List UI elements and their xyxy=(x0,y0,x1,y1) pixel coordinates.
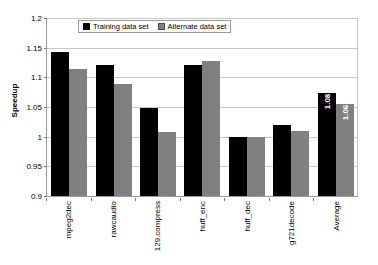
bar-group xyxy=(225,18,269,196)
y-axis-tick-label: 1.05 xyxy=(2,103,47,112)
bar-group xyxy=(47,18,91,196)
y-axis-tick-label: 1.1 xyxy=(2,73,47,82)
bar-group xyxy=(180,18,224,196)
x-axis-tick-label: rawcaudio xyxy=(108,201,117,237)
x-axis-tick-label: 129.compress xyxy=(153,201,162,251)
x-axis-tick-label: huff_dec xyxy=(242,201,251,232)
chart-legend: Training data set Alternate data set xyxy=(78,20,231,33)
bar-group xyxy=(269,18,313,196)
legend-swatch-icon-training xyxy=(83,23,90,30)
x-axis-tick-label: g721decode xyxy=(287,201,296,245)
bar-groups: 1.081.06 xyxy=(47,18,358,196)
bar-pair: 1.081.06 xyxy=(314,18,358,196)
x-axis-tick-mark xyxy=(224,198,225,201)
speedup-bar-chart: Speedup 0.90.9511.051.11.151.2 1.081.06 … xyxy=(0,0,378,265)
x-axis-tick-mark xyxy=(91,198,92,201)
y-axis-tick-label: 1.15 xyxy=(2,43,47,52)
bar-pair xyxy=(136,18,180,196)
bar-training xyxy=(140,108,158,196)
bar-alternate xyxy=(247,137,265,196)
plot-area: 0.90.9511.051.11.151.2 1.081.06 xyxy=(46,18,358,197)
bar-value-label: 1.06 xyxy=(340,105,349,121)
bar-pair xyxy=(47,18,91,196)
x-axis-label-cell: huff_enc xyxy=(180,199,225,263)
x-axis-tick-mark xyxy=(135,198,136,201)
bar-pair xyxy=(269,18,313,196)
y-axis-tick-label: 0.9 xyxy=(2,192,47,201)
legend-swatch-icon-alternate xyxy=(158,23,165,30)
bar-pair xyxy=(180,18,224,196)
y-axis-tick-label: 0.95 xyxy=(2,162,47,171)
bar-group xyxy=(91,18,135,196)
x-axis-tick-mark xyxy=(313,198,314,201)
x-axis-label-cell: huff_dec xyxy=(224,199,269,263)
legend-item-training: Training data set xyxy=(83,22,149,31)
y-axis-tick-label: 1 xyxy=(2,132,47,141)
x-axis-label-cell: mpeg2dec xyxy=(46,199,91,263)
legend-label-alternate: Alternate data set xyxy=(168,22,227,31)
bar-training xyxy=(51,52,69,196)
x-axis-label-cell: rawcaudio xyxy=(91,199,136,263)
bar-alternate xyxy=(69,69,87,196)
x-axis-tick-mark xyxy=(269,198,270,201)
bar-pair xyxy=(91,18,135,196)
legend-label-training: Training data set xyxy=(93,22,149,31)
x-axis-label-cell: g721decode xyxy=(269,199,314,263)
bar-training xyxy=(229,137,247,196)
bar-training xyxy=(184,65,202,196)
bar-alternate: 1.06 xyxy=(336,104,354,196)
bar-pair xyxy=(225,18,269,196)
bar-group xyxy=(136,18,180,196)
bar-alternate xyxy=(291,131,309,196)
bar-group: 1.081.06 xyxy=(314,18,358,196)
x-axis-label-cell: Average xyxy=(313,199,358,263)
bar-alternate xyxy=(202,61,220,196)
bar-training: 1.08 xyxy=(318,93,336,196)
y-axis-tick-label: 1.2 xyxy=(2,14,47,23)
y-axis-tick-mark xyxy=(44,196,47,197)
legend-item-alternate: Alternate data set xyxy=(158,22,227,31)
bar-training xyxy=(273,125,291,196)
x-axis-tick-label: Average xyxy=(331,201,340,231)
x-axis-label-cell: 129.compress xyxy=(135,199,180,263)
x-axis-tick-label: huff_enc xyxy=(198,201,207,232)
x-axis-tick-mark xyxy=(180,198,181,201)
bar-value-label: 1.08 xyxy=(322,94,331,110)
x-axis-labels: mpeg2decrawcaudio129.compresshuff_enchuf… xyxy=(46,199,358,263)
x-axis-tick-mark xyxy=(46,198,47,201)
bar-alternate xyxy=(114,84,132,196)
bar-alternate xyxy=(158,132,176,196)
x-axis-tick-label: mpeg2dec xyxy=(64,201,73,238)
bar-training xyxy=(96,65,114,196)
